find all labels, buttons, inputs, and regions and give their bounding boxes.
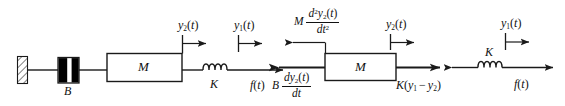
displacement-indicator-y2-right [391,34,415,50]
displacement-indicator-y1-left [239,35,263,52]
label-inertia-force: M d2y2(t) dt2 [294,8,339,36]
label-displacement-y2-left: y2(t) [178,19,198,33]
left-physical-system [18,35,284,84]
wall-fixed-support [18,57,28,84]
spring-coil-k-right [478,62,502,68]
label-displacement-y1-right: y1(t) [501,17,521,31]
label-applied-force-ft-right: f(t) [514,78,529,90]
label-damping-force: B dy2(t) dt [272,72,311,100]
label-spring-k-left: K [210,78,218,90]
right-free-body-diagram [279,33,553,81]
label-displacement-y1-left: y1(t) [234,19,254,33]
label-spring-k-right: K [485,46,493,58]
label-mass-m-right: M [355,60,366,73]
label-force-ft-left: f(t) [250,79,265,91]
label-damper-b: B [64,85,71,97]
label-spring-force: K(y1−y2) [396,79,441,93]
displacement-indicator-y2-left [183,35,207,54]
spring-coil-k-left [203,64,227,70]
displacement-indicator-y1-right [506,33,530,50]
label-mass-m-left: M [138,60,149,73]
label-displacement-y2-right: y2(t) [386,18,406,32]
damper-block-b [58,58,79,84]
